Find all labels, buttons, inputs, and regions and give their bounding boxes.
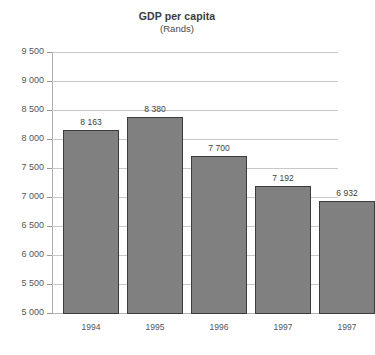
bar-value-label: 8 380 xyxy=(127,104,183,114)
y-axis-tick xyxy=(47,313,52,314)
y-axis-tick xyxy=(47,139,52,140)
y-axis-tick xyxy=(47,255,52,256)
bar-value-label: 7 192 xyxy=(255,173,311,183)
y-axis-label: 6 500 xyxy=(0,220,44,230)
x-axis-label: 1997 xyxy=(255,322,311,332)
bar-value-label: 6 932 xyxy=(319,188,375,198)
chart-title-block: GDP per capita (Rands) xyxy=(0,10,354,35)
y-axis-label: 9 500 xyxy=(0,46,44,56)
y-axis-tick xyxy=(47,81,52,82)
bar xyxy=(127,117,183,314)
bar xyxy=(191,156,247,314)
y-axis-label: 6 000 xyxy=(0,249,44,259)
gridline xyxy=(52,81,338,82)
y-axis-label: 8 500 xyxy=(0,104,44,114)
y-axis-label: 8 000 xyxy=(0,133,44,143)
bar xyxy=(319,201,375,314)
bar-value-label: 8 163 xyxy=(63,117,119,127)
x-axis-label: 1995 xyxy=(127,322,183,332)
y-axis-tick xyxy=(47,284,52,285)
y-axis-tick xyxy=(47,197,52,198)
y-axis-tick xyxy=(47,168,52,169)
gridline xyxy=(52,52,338,53)
y-axis-label: 5 000 xyxy=(0,307,44,317)
chart-title: GDP per capita xyxy=(0,10,354,23)
bar xyxy=(63,130,119,314)
bar xyxy=(255,186,311,314)
y-axis-label: 7 000 xyxy=(0,191,44,201)
bar-value-label: 7 700 xyxy=(191,143,247,153)
y-axis-line xyxy=(52,52,53,314)
y-axis-label: 7 500 xyxy=(0,162,44,172)
x-axis-label: 1996 xyxy=(191,322,247,332)
y-axis-tick xyxy=(47,52,52,53)
x-axis-label: 1994 xyxy=(63,322,119,332)
y-axis-label: 5 500 xyxy=(0,278,44,288)
chart-subtitle: (Rands) xyxy=(0,23,354,35)
y-axis-label: 9 000 xyxy=(0,75,44,85)
gridline xyxy=(52,110,338,111)
y-axis-tick xyxy=(47,110,52,111)
y-axis-tick xyxy=(47,226,52,227)
x-axis-label: 1997 xyxy=(319,322,375,332)
